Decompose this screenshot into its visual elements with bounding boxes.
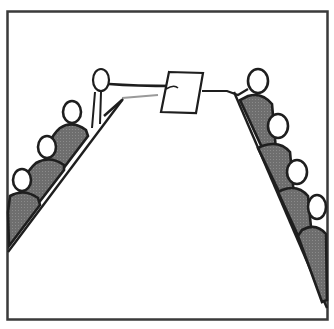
document-icon [161,72,203,113]
person-head-icon [248,69,268,93]
person-head-icon [38,136,56,158]
person-head-icon [308,195,326,219]
person-head-icon [268,114,288,138]
person-head-icon [93,69,109,91]
meeting-illustration: Meeting table pictogram: a person hands … [0,0,334,329]
person-head-icon [63,101,81,123]
person-head-icon [13,169,31,191]
person-head-icon [287,160,307,184]
meeting-table-pictogram [0,0,334,329]
